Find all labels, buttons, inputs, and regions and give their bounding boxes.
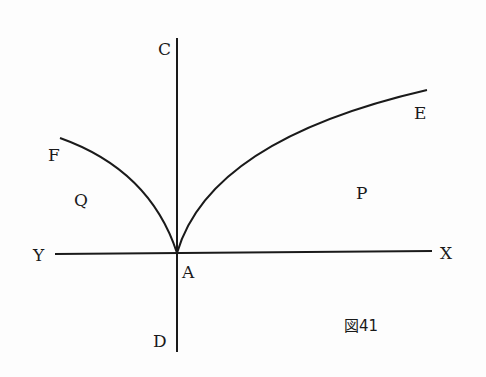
label-x: X xyxy=(440,245,452,262)
label-q: Q xyxy=(74,192,88,209)
label-d: D xyxy=(153,333,167,350)
label-c: C xyxy=(158,41,171,58)
diagram-lines xyxy=(0,0,486,377)
curve-ae xyxy=(177,90,427,253)
label-f: F xyxy=(48,147,60,164)
label-a: A xyxy=(182,264,194,281)
horizontal-axis-yx xyxy=(55,251,432,254)
figure-caption: 図41 xyxy=(344,319,378,334)
label-y: Y xyxy=(33,247,44,264)
label-p: P xyxy=(356,185,367,202)
figure-41: C F Q P E Y X A D 図41 xyxy=(0,0,486,377)
label-e: E xyxy=(414,105,426,122)
